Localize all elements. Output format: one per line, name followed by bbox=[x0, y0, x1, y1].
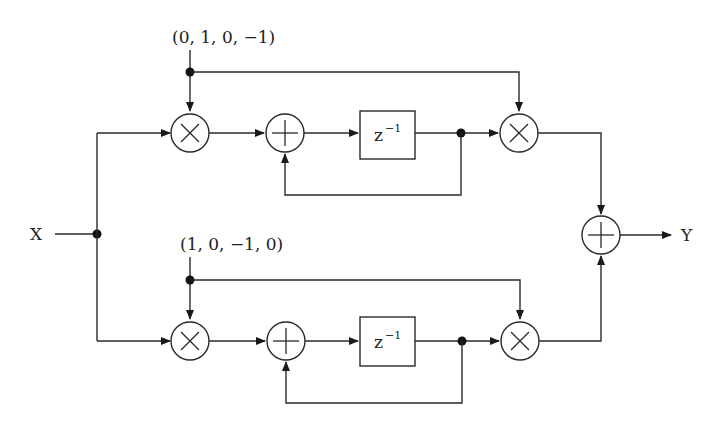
lower-output-multiplier bbox=[501, 322, 539, 360]
upper-accumulator-adder bbox=[266, 114, 304, 152]
delay-exponent-label: −1 bbox=[385, 122, 401, 135]
lower-delay-block: z −1 bbox=[360, 317, 415, 366]
output-label-y: Y bbox=[680, 225, 693, 245]
input-label-x: X bbox=[30, 224, 43, 244]
delay-z-label: z bbox=[374, 125, 383, 145]
upper-output-multiplier bbox=[500, 114, 538, 152]
lower-accumulator-adder bbox=[267, 322, 305, 360]
upper-coefficient-label: (0, 1, 0, −1) bbox=[172, 27, 275, 47]
delay-z-label: z bbox=[374, 332, 383, 352]
upper-input-multiplier bbox=[171, 114, 209, 152]
upper-coef-bypass-wire bbox=[190, 72, 519, 111]
lower-input-multiplier bbox=[171, 322, 209, 360]
upper-delay-block: z −1 bbox=[360, 111, 415, 159]
lower-coef-bypass-wire bbox=[190, 280, 520, 319]
delay-exponent-label: −1 bbox=[385, 329, 401, 342]
output-adder bbox=[582, 216, 620, 254]
lower-coefficient-label: (1, 0, −1, 0) bbox=[180, 234, 283, 254]
block-diagram: X (0, 1, 0, −1) z −1 (1, 0, −1, 0) bbox=[0, 0, 720, 432]
wire-lower-to-sum bbox=[539, 256, 601, 341]
wire-upper-to-sum bbox=[538, 133, 601, 214]
